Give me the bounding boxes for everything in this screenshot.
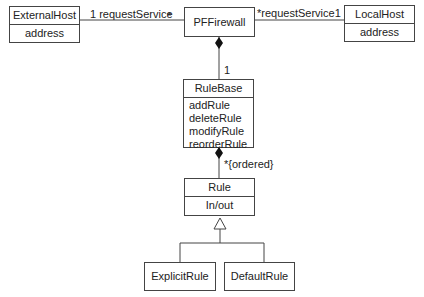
class-rule[interactable]: Rule In/out [184, 178, 255, 216]
composition-diamond-icon [215, 37, 223, 49]
class-explicit-rule[interactable]: ExplicitRule [144, 262, 216, 291]
class-attribute: address [10, 24, 79, 42]
operation: deleteRule [189, 112, 253, 125]
class-name: ExplicitRule [145, 263, 215, 290]
class-name: RuleBase [184, 80, 253, 97]
class-local-host[interactable]: LocalHost address [344, 5, 415, 42]
operation: addRule [189, 99, 253, 112]
operation: modifyRule [189, 125, 253, 138]
association-label: 1 requestService [90, 8, 173, 20]
class-attribute: address [345, 23, 414, 41]
generalization-triangle-icon [214, 218, 226, 229]
class-default-rule[interactable]: DefaultRule [224, 262, 295, 291]
association-label: *requestService1 [257, 7, 341, 19]
multiplicity-label: * [167, 10, 171, 22]
class-attribute: In/out [185, 196, 254, 214]
class-pf-firewall[interactable]: PFFirewall [184, 7, 255, 37]
class-operations: addRule deleteRule modifyRule reorderRul… [184, 97, 253, 152]
class-name: ExternalHost [10, 7, 79, 24]
class-name: Rule [185, 179, 254, 196]
class-rule-base[interactable]: RuleBase addRule deleteRule modifyRule r… [183, 79, 254, 148]
class-external-host[interactable]: ExternalHost address [9, 6, 80, 43]
class-name: DefaultRule [225, 263, 294, 290]
class-name: LocalHost [345, 6, 414, 23]
association-label: *{ordered} [224, 158, 274, 170]
operation: reorderRule [189, 138, 253, 151]
class-name: PFFirewall [185, 8, 254, 36]
multiplicity-label: 1 [224, 64, 230, 76]
